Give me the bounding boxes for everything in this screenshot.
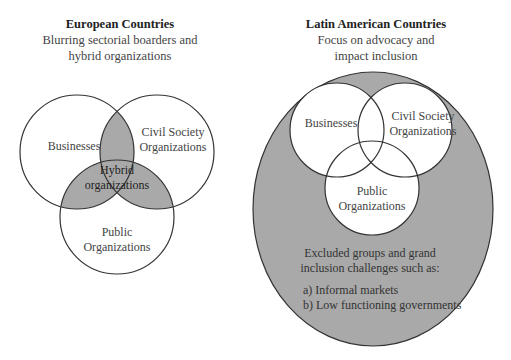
left-public-label: Public Organizations (72, 225, 162, 255)
examples-list: a) Informal markets b) Low functioning g… (303, 283, 461, 313)
item-low-functioning-governments: b) Low functioning governments (303, 298, 461, 313)
excluded-groups-label: Excluded groups and grand inclusion chal… (300, 246, 440, 276)
left-civil-line2: Organizations (128, 140, 218, 155)
hybrid-label: Hybrid organizations (72, 163, 162, 193)
excluded-line2: inclusion challenges such as: (300, 261, 440, 276)
left-public-line1: Public (72, 225, 162, 240)
hybrid-line1: Hybrid (72, 163, 162, 178)
left-civil-line1: Civil Society (128, 125, 218, 140)
left-public-line2: Organizations (72, 240, 162, 255)
left-businesses-label: Businesses (34, 139, 114, 154)
right-public-line2: Organizations (327, 199, 417, 214)
right-public-line1: Public (327, 184, 417, 199)
right-civil-line1: Civil Society (383, 109, 463, 124)
right-public-label: Public Organizations (327, 184, 417, 214)
right-civil-line2: Organizations (383, 124, 463, 139)
excluded-line1: Excluded groups and grand (300, 246, 440, 261)
right-civil-label: Civil Society Organizations (383, 109, 463, 139)
right-businesses-label: Businesses (296, 116, 366, 131)
item-informal-markets: a) Informal markets (303, 283, 461, 298)
left-civil-label: Civil Society Organizations (128, 125, 218, 155)
hybrid-line2: organizations (72, 178, 162, 193)
